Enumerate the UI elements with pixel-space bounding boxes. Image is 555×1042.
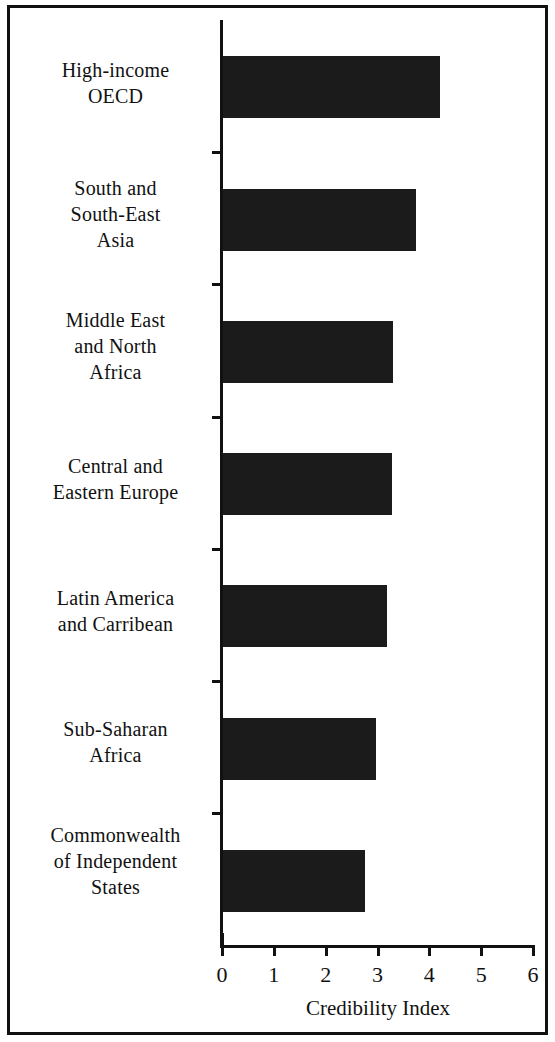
category-label-line: Africa [18,359,213,385]
category-label-middle-east-and-north-africa: Middle East and North Africa [18,307,213,385]
y-axis-tick [212,416,221,419]
category-label-line: Sub-Saharan [18,716,213,742]
bar-commonwealth-of-independent-states [222,850,365,912]
category-label-line: Eastern Europe [18,479,213,505]
category-label-line: and North [18,333,213,359]
x-axis-tick [273,945,276,956]
x-axis-tick-label: 6 [513,962,553,988]
y-axis-tick [212,548,221,551]
category-label-sub-saharan-africa: Sub-Saharan Africa [18,716,213,768]
category-label-line: of Independent [18,848,213,874]
category-label-line: and Carribean [18,611,213,637]
category-label-commonwealth-of-independent-states: Commonwealth of Independent States [18,822,213,900]
bar-sub-saharan-africa [222,718,376,780]
category-label-line: Latin America [18,585,213,611]
y-axis-line [220,20,223,948]
bar-chart-plot: High-income OECD South and South-East As… [0,0,555,1042]
x-axis-tick [221,933,224,956]
y-axis-tick [212,283,221,286]
category-label-latin-america-and-carribean: Latin America and Carribean [18,585,213,637]
y-axis-tick [212,151,221,154]
category-label-line: South and [18,175,213,201]
category-label-line: Commonwealth [18,822,213,848]
bar-high-income-oecd [222,56,440,118]
bar-middle-east-and-north-africa [222,321,393,383]
category-label-south-and-south-east-asia: South and South-East Asia [18,175,213,253]
category-label-line: Asia [18,227,213,253]
category-label-line: Middle East [18,307,213,333]
x-axis-tick [480,945,483,956]
category-label-line: High-income [18,57,213,83]
x-axis-tick-label: 4 [409,962,449,988]
category-label-line: Africa [18,742,213,768]
bar-south-and-south-east-asia [222,189,416,251]
x-axis-tick-label: 1 [254,962,294,988]
category-label-central-and-eastern-europe: Central and Eastern Europe [18,453,213,505]
y-axis-tick [212,680,221,683]
figure-container: High-income OECD South and South-East As… [0,0,555,1042]
x-axis-tick-label: 2 [306,962,346,988]
bar-central-and-eastern-europe [222,453,392,515]
category-label-line: Central and [18,453,213,479]
category-label-line: States [18,874,213,900]
x-axis-tick-label: 0 [202,962,242,988]
category-label-line: OECD [18,83,213,109]
bar-latin-america-and-carribean [222,585,387,647]
x-axis-tick-label: 3 [358,962,398,988]
x-axis-tick [428,945,431,956]
x-axis-title: Credibility Index [222,996,534,1021]
x-axis-tick [532,945,535,956]
x-axis-tick [325,945,328,956]
category-label-high-income-oecd: High-income OECD [18,57,213,109]
y-axis-tick [212,812,221,815]
x-axis-tick [377,945,380,956]
category-label-line: South-East [18,201,213,227]
x-axis-tick-label: 5 [461,962,501,988]
